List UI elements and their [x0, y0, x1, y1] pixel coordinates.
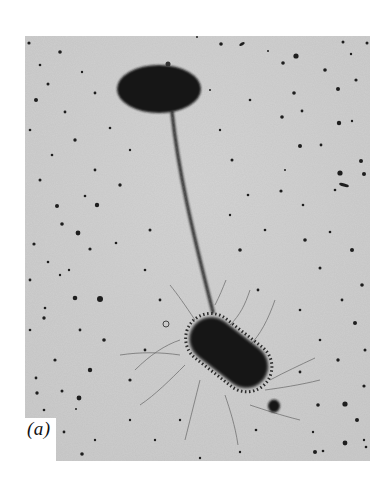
- micrograph-figure: (a): [0, 0, 389, 477]
- panel-label: (a): [27, 419, 51, 438]
- micrograph-image: [0, 0, 389, 477]
